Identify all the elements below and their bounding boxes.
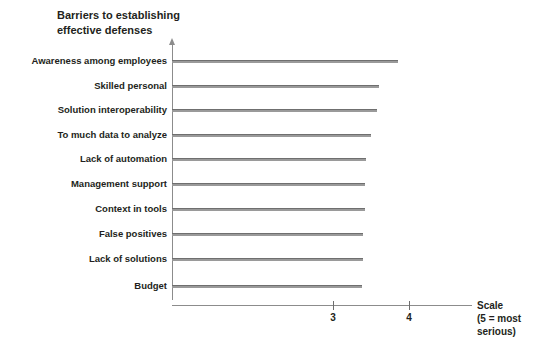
bar xyxy=(172,208,365,211)
bar xyxy=(172,233,363,236)
bar xyxy=(172,134,371,137)
chart-row: To much data to analyze xyxy=(0,128,551,142)
category-label: Solution interoperability xyxy=(58,103,172,117)
x-axis-tick xyxy=(409,301,410,310)
category-label: Awareness among employees xyxy=(31,54,172,68)
chart-row: Management support xyxy=(0,177,551,191)
chart-row: Lack of solutions xyxy=(0,252,551,266)
chart-row: Budget xyxy=(0,279,551,293)
bar xyxy=(172,183,365,186)
bar xyxy=(172,285,362,288)
category-label: Management support xyxy=(71,177,172,191)
bar xyxy=(172,85,379,88)
chart-row: False positives xyxy=(0,227,551,241)
bar xyxy=(172,60,398,63)
bar xyxy=(172,158,366,161)
category-label: Lack of solutions xyxy=(89,252,172,266)
x-axis-tick-label: 3 xyxy=(323,312,343,323)
bar xyxy=(172,258,363,261)
category-label: To much data to analyze xyxy=(57,128,172,142)
chart-row: Lack of automation xyxy=(0,152,551,166)
x-axis-tick xyxy=(333,301,334,310)
category-label: Lack of automation xyxy=(80,152,172,166)
x-axis-line xyxy=(172,305,472,306)
bar xyxy=(172,109,377,112)
x-axis-tick-label: 4 xyxy=(399,312,419,323)
chart-row: Solution interoperability xyxy=(0,103,551,117)
chart-row: Skilled personal xyxy=(0,79,551,93)
chart-row: Context in tools xyxy=(0,202,551,216)
category-label: Context in tools xyxy=(95,202,172,216)
chart-row: Awareness among employees xyxy=(0,54,551,68)
x-axis-title: Scale (5 = most serious) xyxy=(477,299,551,338)
category-label: False positives xyxy=(99,227,172,241)
category-label: Skilled personal xyxy=(94,79,172,93)
category-label: Budget xyxy=(134,279,172,293)
